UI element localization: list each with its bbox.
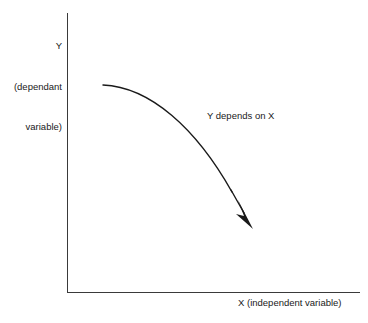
y-axis-label-line-2: (dependant [0, 80, 62, 94]
y-axis-label-line-1: Y [0, 39, 62, 53]
curve-annotation-label: Y depends on X [207, 110, 274, 122]
x-axis-label: X (independent variable) [238, 296, 342, 310]
chart-figure: Y (dependant variable) X (independent va… [0, 0, 368, 323]
data-curve [103, 85, 232, 192]
y-axis-label-line-3: variable) [0, 120, 62, 134]
y-axis-label: Y (dependant variable) [0, 12, 62, 161]
